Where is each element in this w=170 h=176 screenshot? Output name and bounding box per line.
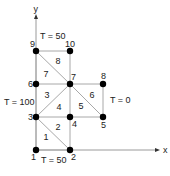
mesh-edge	[36, 117, 70, 150]
element-number-label: 3	[44, 90, 49, 100]
mesh-edge	[36, 84, 70, 117]
node-number-label: 2	[71, 152, 76, 162]
node-number-label: 9	[30, 39, 35, 49]
node-number-label: 1	[31, 152, 36, 162]
node-number-label: 6	[28, 79, 33, 89]
element-number-label: 6	[89, 90, 94, 100]
boundary-condition-label: T = 50	[41, 155, 67, 165]
x-axis-arrow-icon	[155, 148, 160, 152]
y-axis-arrow-icon	[34, 14, 38, 19]
y-axis-label: y	[34, 4, 39, 14]
node-dot	[33, 114, 39, 120]
element-number-label: 8	[55, 56, 60, 66]
node-dot	[33, 81, 39, 87]
node-number-label: 4	[72, 119, 77, 129]
node-number-label: 3	[28, 112, 33, 122]
boundary-condition-label: T = 0	[110, 95, 131, 105]
node-number-label: 7	[71, 72, 76, 82]
mesh-edge	[70, 84, 103, 117]
node-number-label: 5	[101, 120, 106, 130]
node-number-label: 10	[65, 39, 75, 49]
boundary-condition-label: T = 100	[4, 97, 35, 107]
x-axis-label: x	[163, 145, 168, 155]
element-number-label: 4	[56, 102, 61, 112]
element-number-label: 2	[55, 122, 60, 132]
boundary-condition-label: T = 50	[40, 31, 66, 41]
mesh-nodes: 12345678910	[28, 39, 106, 162]
element-labels: 12345678	[43, 56, 94, 142]
finite-element-mesh-diagram: x y 12345678 12345678910 T = 50T = 100T …	[0, 0, 170, 176]
node-number-label: 8	[101, 71, 106, 81]
node-dot	[100, 81, 106, 87]
element-number-label: 1	[43, 132, 48, 142]
element-number-label: 5	[78, 101, 83, 111]
mesh-edge	[36, 51, 70, 84]
element-number-label: 7	[43, 69, 48, 79]
